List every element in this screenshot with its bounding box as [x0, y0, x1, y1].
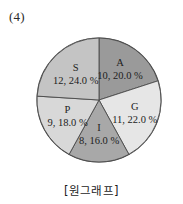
pie-chart-canvas: A10, 20.0 %G11, 22.0 %I8, 16.0 %P9, 18.0…	[0, 0, 183, 175]
slice-value-a: 10, 20.0 %	[97, 70, 143, 81]
slice-name-p: P	[65, 104, 71, 115]
slice-name-s: S	[73, 62, 79, 73]
slice-name-a: A	[116, 57, 124, 68]
pie-slice-s[interactable]	[37, 38, 99, 100]
slice-name-i: I	[97, 122, 101, 133]
pie-chart-svg: A10, 20.0 %G11, 22.0 %I8, 16.0 %P9, 18.0…	[0, 0, 183, 175]
slice-value-s: 12, 24.0 %	[53, 75, 99, 86]
figure-caption: [원그래프]	[0, 182, 183, 198]
slice-name-g: G	[131, 101, 139, 112]
pie-chart-figure: (4) A10, 20.0 %G11, 22.0 %I8, 16.0 %P9, …	[0, 0, 183, 204]
slice-value-g: 11, 22.0 %	[112, 114, 157, 125]
slice-value-i: 8, 16.0 %	[79, 135, 120, 146]
slice-value-p: 9, 18.0 %	[47, 117, 88, 128]
